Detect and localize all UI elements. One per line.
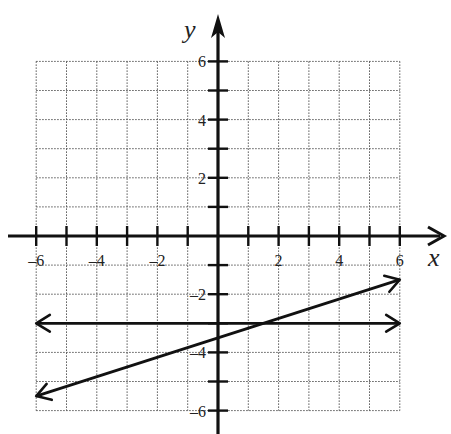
y-tick-label: 4 [198,112,206,129]
x-tick-label: –2 [148,252,165,269]
x-tick-label: 6 [396,252,404,269]
x-tick-label: –6 [27,252,44,269]
y-axis-label: y [181,15,196,44]
x-tick-label: 2 [275,252,283,269]
axes: –6–4–2246642–2–4–6 x y [8,14,444,434]
y-tick-label: 6 [198,53,206,70]
x-tick-label: 4 [335,252,343,269]
x-tick-label: –4 [88,252,105,269]
y-tick-label: 2 [198,170,206,187]
coordinate-graph: –6–4–2246642–2–4–6 x y [0,0,451,434]
y-tick-label: –2 [189,286,206,303]
x-axis-label: x [427,243,440,272]
y-tick-label: –6 [189,403,206,420]
